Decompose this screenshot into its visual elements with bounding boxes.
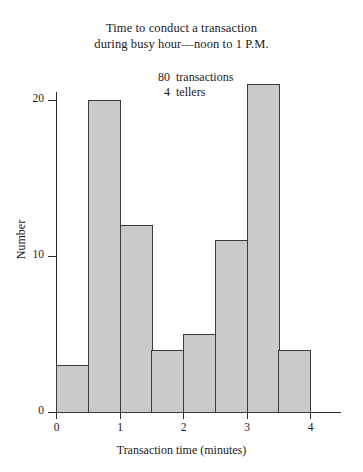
x-axis-label: Transaction time (minutes)	[0, 443, 363, 458]
y-axis-label: Number	[14, 205, 29, 275]
y-axis-tick-label: 0	[38, 404, 44, 416]
y-axis-tick: 10	[48, 256, 56, 257]
y-axis-tick-label: 20	[33, 92, 45, 104]
x-axis-tick-label: 3	[244, 421, 250, 433]
plot-area: 01020 01234 Transaction time (minutes) N…	[0, 0, 363, 472]
histogram-bar	[88, 100, 121, 413]
x-axis-tick-label: 4	[308, 421, 314, 433]
histogram-bar	[215, 240, 248, 413]
x-axis-tick: 3	[247, 412, 248, 419]
x-axis-tick: 0	[56, 412, 57, 419]
x-axis-tick-label: 0	[54, 421, 60, 433]
x-axis-tick-label: 2	[181, 421, 187, 433]
y-axis-tick: 20	[48, 100, 56, 101]
x-axis-tick-label: 1	[117, 421, 123, 433]
histogram-figure: Time to conduct a transaction during bus…	[0, 0, 363, 472]
y-axis-tick-label: 10	[33, 248, 45, 260]
histogram-bar	[151, 350, 184, 414]
histogram-bar	[247, 84, 280, 413]
histogram-bar	[56, 365, 89, 413]
x-axis-tick: 2	[183, 412, 184, 419]
histogram-bar	[278, 350, 311, 414]
histogram-bar	[120, 225, 153, 414]
histogram-bar	[183, 334, 216, 413]
y-axis-tick: 0	[48, 412, 56, 413]
x-axis-tick: 1	[120, 412, 121, 419]
x-axis-tick: 4	[310, 412, 311, 419]
